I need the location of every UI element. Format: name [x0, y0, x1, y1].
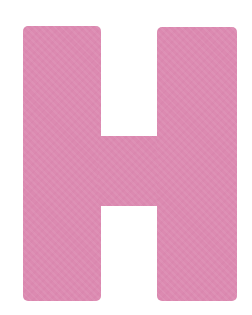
letter-h: H: [0, 0, 252, 315]
crossbar: [98, 136, 160, 206]
left-stem: [23, 26, 101, 301]
right-stem: [157, 27, 237, 301]
letter-label: H: [0, 0, 1, 1]
